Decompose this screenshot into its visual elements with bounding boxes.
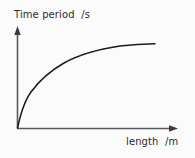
graph-figure: Time period /s length /m xyxy=(0,0,195,158)
x-axis-arrowhead xyxy=(169,125,178,132)
x-axis-label: length /m xyxy=(126,136,178,148)
y-axis-arrowhead xyxy=(14,26,20,35)
plot-area xyxy=(0,0,195,158)
y-axis-label: Time period /s xyxy=(14,9,90,21)
data-curve xyxy=(18,44,156,128)
